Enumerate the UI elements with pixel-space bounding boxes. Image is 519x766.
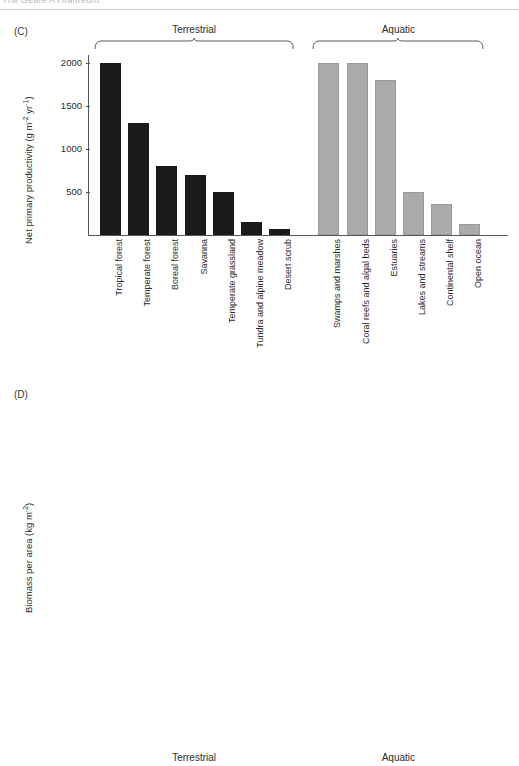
bracket-shape xyxy=(94,38,294,50)
group-label-aquatic-c: Aquatic xyxy=(312,24,484,35)
y-tick-label: 2000 xyxy=(61,57,82,68)
bar xyxy=(375,80,396,235)
page-running-header: The Geare A Hranreum: xyxy=(0,0,519,12)
category-label: Swamps and marshes xyxy=(332,239,342,328)
y-axis-title-exp1: -2 xyxy=(22,506,29,512)
bar xyxy=(347,63,368,235)
y-axis-title-end: ) xyxy=(23,503,34,506)
panel-d-tag: (D) xyxy=(14,389,28,400)
panel-c-tag: (C) xyxy=(14,26,28,37)
group-bracket-terrestrial-c: Terrestrial xyxy=(94,38,294,50)
panel-c: (C) Net primary productivity (g m-2 yr-1… xyxy=(0,12,519,372)
group-bracket-aquatic-c: Aquatic xyxy=(312,38,484,50)
panel-c-plot-area: 500100015002000 Tropical forestTemperate… xyxy=(88,55,508,236)
category-label: Boreal forest xyxy=(170,239,180,290)
panel-c-bars xyxy=(89,55,508,235)
category-label: Temperate grassland xyxy=(227,239,237,323)
category-label: Estuaries xyxy=(389,239,399,277)
category-label: Lakes and streams xyxy=(417,239,427,315)
y-tick-label: 500 xyxy=(66,186,82,197)
category-label: Temperate forest xyxy=(142,239,152,307)
y-axis-title-exp2: -1 xyxy=(22,100,29,106)
panel-d: (D) Biomass per area (kg m-2) Terrestria… xyxy=(0,378,519,766)
category-label: Open ocean xyxy=(473,239,483,288)
y-axis-title-exp1: -2 xyxy=(22,116,29,122)
category-label: Tropical forest xyxy=(114,239,124,296)
panel-d-y-axis-title: Biomass per area (kg m-2) xyxy=(22,503,34,613)
bar xyxy=(241,222,262,235)
bar xyxy=(459,224,480,235)
bar xyxy=(318,63,339,235)
category-label: Savanna xyxy=(199,239,209,275)
bar xyxy=(431,204,452,235)
header-rule xyxy=(0,9,519,10)
running-header-text: The Geare A Hranreum: xyxy=(2,0,102,5)
bar xyxy=(403,192,424,235)
bracket-shape xyxy=(312,38,484,50)
bar xyxy=(156,166,177,235)
category-label: Coral reefs and algal beds xyxy=(361,239,371,344)
bar xyxy=(185,175,206,235)
category-label: Desert scrub xyxy=(283,239,293,290)
category-label: Continental shelf xyxy=(445,239,455,306)
y-axis-title-mid: yr xyxy=(23,106,34,117)
bar xyxy=(269,229,290,235)
group-label-terrestrial-c: Terrestrial xyxy=(94,24,294,35)
y-axis-title-end: ) xyxy=(23,96,34,99)
bar xyxy=(213,192,234,235)
category-label: Tundra and alpine meadow xyxy=(255,239,265,348)
y-tick-label: 1500 xyxy=(61,100,82,111)
group-label-terrestrial-d: Terrestrial xyxy=(94,752,294,763)
y-axis-title-main: Net primary productivity (g m xyxy=(23,123,34,244)
y-tick-label: 1000 xyxy=(61,143,82,154)
group-label-aquatic-d: Aquatic xyxy=(312,752,484,763)
y-axis-title-main: Biomass per area (kg m xyxy=(23,512,34,613)
bar xyxy=(128,123,149,235)
bar xyxy=(100,63,121,235)
panel-c-y-axis-title: Net primary productivity (g m-2 yr-1) xyxy=(22,96,34,244)
